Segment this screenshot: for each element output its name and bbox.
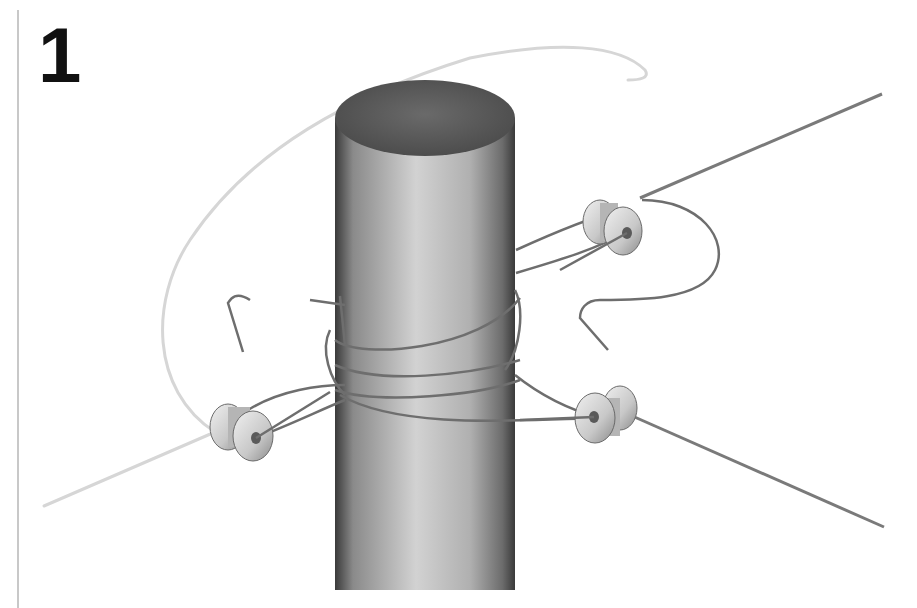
line-wire-upper-right [640,94,882,198]
spool-insulator-upper-right [583,200,642,255]
wooden-post [335,80,515,590]
post-illustration [0,0,917,608]
spool-insulator-lower-right [575,386,637,443]
line-wire-lower-right [630,415,884,527]
